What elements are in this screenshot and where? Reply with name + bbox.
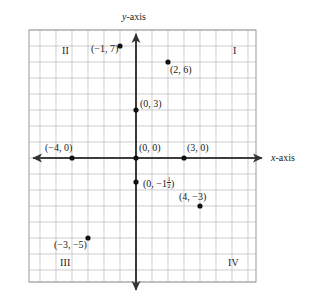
quadrant-III: III <box>60 258 71 268</box>
y-axis-label: y-axis <box>122 12 146 22</box>
point-marker-3-0 <box>181 155 186 160</box>
point-marker-4-neg3 <box>197 203 202 208</box>
point-label-neg1-7: (−1, 7) <box>91 44 118 54</box>
x-axis-label-rest: -axis <box>275 152 294 163</box>
point-label-0-neg1half: (0, −112) <box>143 176 174 190</box>
y-axis-label-rest: -axis <box>126 11 145 22</box>
point-label-0-neg1half-close: ) <box>171 178 174 189</box>
point-label-0-0: (0, 0) <box>139 143 161 153</box>
point-marker-0-neg1half <box>133 179 138 184</box>
point-label-0-neg1half-main: (0, −1 <box>143 178 167 189</box>
point-marker-0-0 <box>133 155 138 160</box>
point-marker-0-3 <box>133 107 138 112</box>
quadrant-II: II <box>62 46 69 56</box>
point-label-4-neg3: (4, −3) <box>179 192 206 202</box>
point-marker-neg4-0 <box>69 155 74 160</box>
quadrant-I: I <box>233 46 237 56</box>
point-label-0-3: (0, 3) <box>140 99 162 109</box>
point-label-3-0: (3, 0) <box>187 143 209 153</box>
point-label-neg4-0: (−4, 0) <box>45 143 72 153</box>
x-axis-label: x-axis <box>271 153 295 163</box>
coordinate-plane-figure: y-axis x-axis II I III IV (−1, 7) (2, 6)… <box>0 0 312 300</box>
point-label-2-6: (2, 6) <box>170 65 192 75</box>
point-label-neg3-neg5: (−3, −5) <box>54 240 87 250</box>
quadrant-IV: IV <box>228 258 239 268</box>
